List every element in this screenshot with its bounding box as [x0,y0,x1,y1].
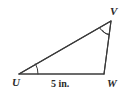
vertex-label-u: U [12,77,20,88]
side-length-label-uw: 5 in. [51,79,69,89]
vertex-label-v: V [110,6,117,17]
geometry-figure-canvas: U V W 5 in. [0,0,128,96]
vertex-label-w: W [107,78,117,89]
